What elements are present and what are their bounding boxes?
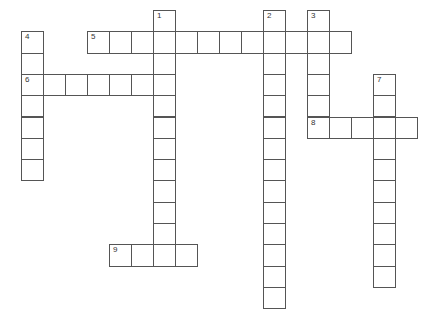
crossword-cell[interactable]: [373, 95, 396, 117]
crossword-cell[interactable]: [307, 74, 330, 96]
crossword-cell[interactable]: [153, 53, 176, 75]
clue-number: 8: [311, 119, 315, 127]
crossword-cell[interactable]: [175, 31, 198, 53]
crossword-cell[interactable]: 4: [21, 31, 44, 53]
crossword-cell[interactable]: [263, 159, 286, 181]
crossword-cell[interactable]: [153, 202, 176, 224]
crossword-cell[interactable]: [153, 95, 176, 117]
clue-number: 4: [25, 33, 29, 41]
crossword-cell[interactable]: [263, 180, 286, 202]
crossword-cell[interactable]: [241, 31, 264, 53]
crossword-cell[interactable]: [21, 138, 44, 160]
crossword-cell[interactable]: [285, 31, 308, 53]
clue-number: 7: [377, 76, 381, 84]
clue-number: 6: [25, 76, 29, 84]
crossword-cell[interactable]: [131, 74, 154, 96]
crossword-cell[interactable]: [153, 138, 176, 160]
clue-number: 3: [311, 12, 315, 20]
crossword-cell[interactable]: [329, 31, 352, 53]
crossword-cell[interactable]: 9: [109, 244, 132, 266]
crossword-cell[interactable]: [263, 95, 286, 117]
crossword-cell[interactable]: [263, 53, 286, 75]
crossword-cell[interactable]: [175, 244, 198, 266]
clue-number: 5: [91, 33, 95, 41]
crossword-cell[interactable]: [153, 31, 176, 53]
crossword-cell[interactable]: [373, 117, 396, 139]
crossword-cell[interactable]: [373, 202, 396, 224]
crossword-cell[interactable]: 2: [263, 10, 286, 32]
clue-number: 1: [157, 12, 161, 20]
crossword-cell[interactable]: [373, 138, 396, 160]
crossword-cell[interactable]: [197, 31, 220, 53]
crossword-cell[interactable]: [153, 74, 176, 96]
crossword-cell[interactable]: 8: [307, 117, 330, 139]
crossword-cell[interactable]: [219, 31, 242, 53]
crossword-cell[interactable]: [373, 244, 396, 266]
crossword-cell[interactable]: [351, 117, 374, 139]
crossword-cell[interactable]: 1: [153, 10, 176, 32]
crossword-cell[interactable]: [263, 287, 286, 309]
crossword-cell[interactable]: [263, 223, 286, 245]
crossword-cell[interactable]: [87, 74, 110, 96]
crossword-cell[interactable]: [153, 117, 176, 139]
crossword-cell[interactable]: [131, 31, 154, 53]
crossword-cell[interactable]: [43, 74, 66, 96]
clue-number: 2: [267, 12, 271, 20]
crossword-cell[interactable]: [21, 159, 44, 181]
crossword-cell[interactable]: 3: [307, 10, 330, 32]
crossword-cell[interactable]: [263, 266, 286, 288]
crossword-cell[interactable]: [65, 74, 88, 96]
crossword-cell[interactable]: [373, 180, 396, 202]
crossword-cell[interactable]: [307, 53, 330, 75]
crossword-cell[interactable]: [263, 31, 286, 53]
crossword-cell[interactable]: [153, 159, 176, 181]
crossword-cell[interactable]: [395, 117, 418, 139]
crossword-cell[interactable]: [307, 95, 330, 117]
crossword-cell[interactable]: [373, 266, 396, 288]
crossword-cell[interactable]: [307, 31, 330, 53]
crossword-cell[interactable]: [263, 202, 286, 224]
crossword-grid: 123846579: [0, 0, 430, 316]
crossword-cell[interactable]: [109, 74, 132, 96]
clue-number: 9: [113, 246, 117, 254]
crossword-cell[interactable]: 7: [373, 74, 396, 96]
crossword-cell[interactable]: [153, 223, 176, 245]
crossword-cell[interactable]: [329, 117, 352, 139]
crossword-cell[interactable]: [21, 117, 44, 139]
crossword-cell[interactable]: [263, 117, 286, 139]
crossword-cell[interactable]: [153, 180, 176, 202]
crossword-cell[interactable]: [373, 159, 396, 181]
crossword-cell[interactable]: [21, 95, 44, 117]
crossword-cell[interactable]: [109, 31, 132, 53]
crossword-cell[interactable]: [263, 138, 286, 160]
crossword-cell[interactable]: [131, 244, 154, 266]
crossword-cell[interactable]: 6: [21, 74, 44, 96]
crossword-cell[interactable]: [263, 74, 286, 96]
crossword-cell[interactable]: [153, 244, 176, 266]
crossword-cell[interactable]: [21, 53, 44, 75]
crossword-cell[interactable]: [373, 223, 396, 245]
crossword-cell[interactable]: 5: [87, 31, 110, 53]
crossword-cell[interactable]: [263, 244, 286, 266]
